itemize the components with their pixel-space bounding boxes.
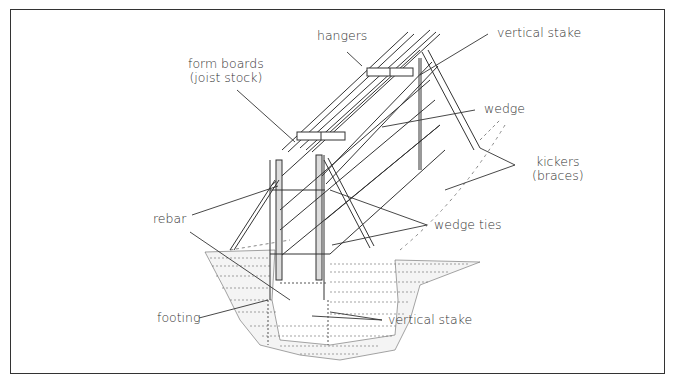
label-hangers: hangers (317, 29, 367, 43)
label-kickers-line1: kickers (532, 155, 584, 169)
label-vertical-stake-bottom: vertical stake (388, 313, 472, 327)
label-footing: footing (157, 311, 201, 325)
label-vertical-stake-top: vertical stake (497, 26, 581, 40)
label-kickers: kickers (braces) (532, 155, 584, 183)
label-wedge-ties: wedge ties (434, 218, 502, 232)
label-kickers-line2: (braces) (532, 169, 584, 183)
formwork-illustration (0, 0, 694, 385)
form-boards (272, 30, 440, 185)
label-rebar: rebar (153, 212, 186, 226)
label-wedge: wedge (484, 102, 525, 116)
soil-hatching (205, 250, 480, 360)
label-form-boards-line2: (joist stock) (188, 71, 264, 85)
label-form-boards: form boards (joist stock) (188, 57, 264, 85)
hangers-boards (297, 68, 413, 140)
label-form-boards-line1: form boards (188, 57, 264, 71)
